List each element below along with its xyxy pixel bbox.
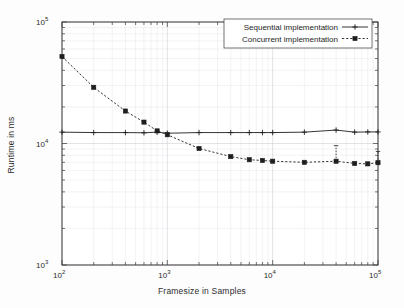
x-tick-label: 105 (369, 269, 381, 280)
legend-label: Concurrent implementation (242, 35, 338, 44)
y-axis-title: Runtime in ms (6, 100, 16, 190)
chart-legend: Sequential implementationConcurrent impl… (224, 19, 372, 48)
x-tick-label: 104 (264, 269, 276, 280)
x-tick-label: 103 (158, 269, 170, 280)
y-tick-label: 103 (36, 259, 48, 270)
legend-label: Sequential implementation (244, 23, 338, 32)
plot-canvas: Sequential implementationConcurrent impl… (0, 0, 404, 308)
x-tick-label: 102 (53, 269, 65, 280)
y-tick-label: 104 (36, 138, 48, 149)
y-tick-label: 105 (36, 16, 48, 27)
chart-figure: Sequential implementationConcurrent impl… (0, 0, 404, 308)
x-axis-title: Framesize in Samples (0, 286, 404, 296)
